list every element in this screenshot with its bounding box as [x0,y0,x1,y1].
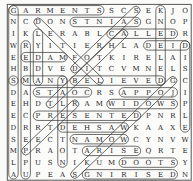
grid-letter: S [11,77,16,85]
grid-letter: I [12,30,15,38]
grid-letter: D [35,18,41,26]
grid-letter: E [48,30,53,38]
grid-letter: I [110,147,113,155]
grid-letter: W [157,100,165,108]
grid-letter: I [135,171,138,179]
grid-letter: H [10,65,16,73]
grid-letter: I [86,65,89,73]
grid-letter: S [183,65,188,73]
grid-letter: K [109,54,115,62]
grid-letter: S [146,171,151,179]
grid-letter: L [97,30,102,38]
grid-letter: S [109,7,114,15]
grid-letter: T [60,42,65,50]
grid-letter: M [47,7,54,15]
grid-letter: P [183,100,188,108]
grid-letter: I [110,171,113,179]
grid-letter: S [134,18,139,26]
grid-letter: P [146,112,151,120]
grid-letter: E [158,171,163,179]
grid-letter: T [170,147,175,155]
grid-letter: W [108,100,116,108]
grid-letter: I [110,77,113,85]
grid-letter: D [170,171,176,179]
grid-letter: O [47,18,53,26]
word-loop-saints [70,17,141,26]
grid-letter: O [145,100,151,108]
grid-letter: A [34,77,41,85]
grid-letter: C [23,18,28,26]
grid-letter: R [35,124,41,132]
grid-letter: D [158,77,164,85]
grid-letter: J [170,89,174,97]
grid-letter: O [170,18,176,26]
grid-letter: J [170,7,174,15]
grid-letter: L [134,30,139,38]
grid-letter: P [134,89,139,97]
grid-letter: B [23,65,28,73]
grid-letter: D [11,89,17,97]
grid-letter: I [73,42,76,50]
grid-letter: S [36,89,41,97]
grid-letter: N [182,171,188,179]
grid-letter: A [22,7,29,15]
grid-letter: D [170,30,176,38]
grid-letter: A [132,42,139,50]
grid-letter: L [60,100,65,108]
grid-letter: N [96,171,102,179]
grid-letter: E [11,100,16,108]
grid-letter: P [146,89,151,97]
grid-letter: E [60,7,65,15]
grid-letter: P [36,171,41,179]
grid-letter: N [96,18,102,26]
grid-letter: E [48,171,53,179]
grid-letter: U [35,159,41,167]
grid-letter: A [120,89,127,97]
grid-letter: V [120,65,127,73]
grid-letter: N [157,112,163,120]
grid-letter: A [120,18,127,26]
grid-letter: L [183,112,188,120]
grid-letter: E [84,42,89,50]
grid-letter: W [10,42,18,50]
grid-letter: N [10,18,16,26]
grid-letter: M [96,100,103,108]
grid-letter: D [72,65,78,73]
grid-letter: D [11,124,17,132]
grid-letter: I [110,18,113,26]
grid-letter: M [59,54,66,62]
grid-letter: A [108,124,115,132]
grid-letter: H [23,100,29,108]
grid-letter: C [48,136,53,144]
grid-letter: E [183,147,188,155]
grid-letter: L [36,30,41,38]
grid-letter: R [158,147,164,155]
grid-letter: A [169,54,176,62]
grid-letter: W [120,124,128,132]
grid-letter: N [157,18,163,26]
grid-letter: T [48,124,53,132]
grid-letter: S [48,159,53,167]
grid-letter: D [133,100,139,108]
grid-letter: E [11,54,16,62]
grid-letter: O [60,147,66,155]
grid-letter: R [35,147,41,155]
grid-letter: U [23,171,29,179]
grid-letter: D [182,42,188,50]
grid-letter: E [183,124,188,132]
grid-letter: O [133,159,139,167]
grid-letter: I [122,54,125,62]
grid-letter: G [170,77,176,85]
grid-letter: D [145,42,151,50]
grid-letter: Y [59,77,65,85]
grid-letter: H [108,42,114,50]
grid-letter: C [121,7,126,15]
grid-letter: L [146,30,151,38]
grid-letter: R [48,112,54,120]
grid-letter: I [73,159,76,167]
grid-letter: N [59,159,65,167]
grid-letter: Q [145,147,151,155]
grid-letter: L [97,77,102,85]
grid-letter: O [84,54,90,62]
grid-letter: T [85,18,90,26]
